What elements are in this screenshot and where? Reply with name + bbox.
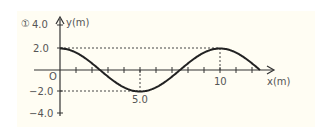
xtick-label-10: 10 [214, 76, 227, 87]
ytick-label-2: 2.0 [33, 43, 49, 54]
ytick-label-neg2: −2.0 [29, 86, 53, 97]
xtick-label-5: 5.0 [132, 94, 148, 105]
axes [34, 17, 274, 116]
figure-label: ① [21, 18, 30, 29]
x-axis-label: x(m) [267, 76, 291, 87]
ytick-label-4: 4.0 [32, 19, 48, 30]
y-axis-label: y(m) [66, 17, 90, 28]
ytick-label-neg4: −4.0 [29, 108, 53, 119]
origin-label: O [49, 71, 57, 82]
wave-chart: ① 4.0 y(m) 2.0 O −2.0 −4.0 5.0 10 x(m) [0, 0, 330, 130]
